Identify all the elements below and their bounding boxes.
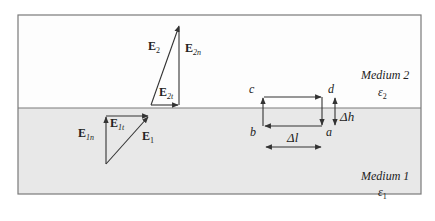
medium2-region — [18, 15, 421, 108]
corner-d-label: d — [328, 82, 335, 96]
corner-c-label: c — [249, 82, 255, 96]
medium2-label: Medium 2 — [360, 68, 409, 82]
delta-h-label: Δh — [339, 109, 354, 124]
medium1-label: Medium 1 — [360, 169, 409, 183]
corner-b-label: b — [250, 125, 256, 139]
boundary-conditions-diagram: E2 E2n E2t E1n E1t E1 c d b a Δh Δl Medi… — [0, 0, 435, 221]
corner-a-label: a — [326, 125, 332, 139]
delta-l-label: Δl — [286, 130, 299, 145]
